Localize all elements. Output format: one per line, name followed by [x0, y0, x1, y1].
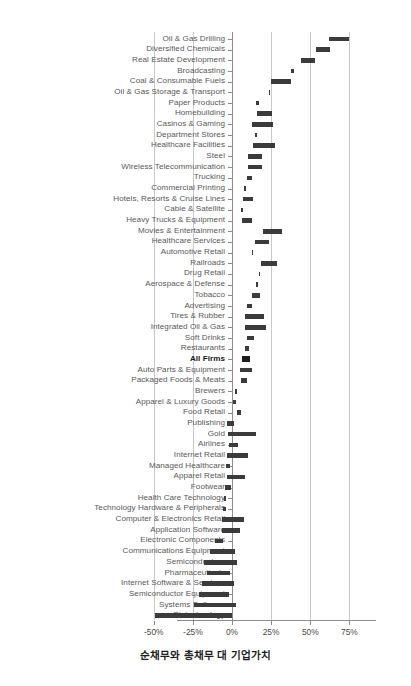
range-bar — [225, 485, 231, 490]
range-bar — [155, 613, 232, 618]
x-tick-label--50: -50% — [144, 627, 164, 637]
category-label: Publishing — [187, 417, 225, 428]
range-bar — [222, 517, 245, 522]
range-bar — [244, 186, 246, 191]
range-bar — [256, 101, 259, 106]
category-label: Health Care Technology — [138, 492, 225, 503]
range-bar — [229, 443, 238, 448]
x-axis-title: 순채무와 총채무 대 기업가치 — [0, 647, 411, 662]
range-bar — [248, 154, 261, 159]
range-bar — [242, 356, 250, 362]
category-label: Drug Retail — [184, 267, 225, 278]
category-label: Healthcare Services — [152, 235, 225, 246]
range-bar — [233, 400, 236, 405]
range-bar — [210, 549, 235, 554]
range-bar — [235, 389, 237, 394]
category-label: Wireless Telecommunication — [121, 161, 225, 172]
x-tick-label-25: 25% — [263, 627, 280, 637]
range-bar — [329, 37, 349, 42]
category-label: Auto Parts & Equipment — [138, 364, 225, 375]
range-bar — [245, 314, 264, 319]
range-bar — [261, 261, 277, 266]
range-bar — [228, 432, 256, 437]
category-label: Paper Products — [169, 97, 226, 108]
category-label: Automotive Retail — [161, 246, 225, 257]
x-tick-label--25: -25% — [183, 627, 203, 637]
range-bar — [263, 229, 282, 234]
range-bar — [245, 346, 249, 351]
category-label: Homebuilding — [175, 107, 225, 118]
category-label: Soft Drinks — [185, 332, 225, 343]
category-label: Food Retail — [183, 406, 225, 417]
range-bar — [240, 368, 253, 373]
range-bar — [247, 176, 253, 181]
range-bar — [222, 528, 240, 533]
category-label: Healthcare Facilities — [151, 139, 225, 150]
category-label: Steel — [206, 150, 225, 161]
x-tick-25 — [271, 621, 272, 625]
range-bar — [301, 58, 315, 63]
category-label: Airlines — [198, 438, 225, 449]
category-label: Footwear — [191, 481, 225, 492]
range-bar — [253, 143, 275, 148]
x-tick-75 — [349, 621, 350, 625]
x-tick-50 — [310, 621, 311, 625]
range-bar — [256, 282, 258, 287]
range-bar — [259, 272, 261, 277]
category-label: Application Software — [150, 524, 225, 535]
category-label: Managed Healthcare — [149, 460, 225, 471]
x-tick-label-0: 0% — [226, 627, 238, 637]
range-bar — [241, 378, 247, 383]
category-label: Hotels, Resorts & Cruise Lines — [113, 193, 225, 204]
x-tick-label-50: 50% — [302, 627, 319, 637]
plot-area: Oil & Gas DrillingDiversified ChemicalsR… — [0, 0, 411, 686]
category-label: Cable & Satellite — [164, 203, 225, 214]
range-bar — [204, 560, 238, 565]
category-label: Oil & Gas Drilling — [162, 33, 225, 44]
category-label: Brewers — [195, 385, 225, 396]
category-label: Commercial Printing — [151, 182, 225, 193]
range-bar — [252, 122, 272, 127]
range-bar — [224, 496, 226, 501]
range-bar — [269, 90, 271, 95]
x-tick-label-75: 75% — [341, 627, 358, 637]
range-bar — [215, 539, 223, 544]
range-bar — [255, 133, 257, 138]
category-label: Diversified Chemicals — [146, 43, 225, 54]
range-bar — [202, 581, 234, 586]
category-label: Department Stores — [156, 129, 225, 140]
category-label: Internet Retail — [174, 449, 225, 460]
range-bar — [255, 240, 269, 245]
range-bar — [291, 69, 294, 74]
range-bar — [316, 47, 330, 52]
category-label: Electronic Components — [140, 534, 225, 545]
category-label: Heavy Trucks & Equipment — [126, 214, 225, 225]
category-label: Apparel & Luxury Goods — [136, 396, 225, 407]
category-label: Advertising — [184, 300, 225, 311]
category-label: Aerospace & Defense — [145, 278, 225, 289]
range-bar — [227, 421, 233, 426]
category-label: Oil & Gas Storage & Transport — [114, 86, 225, 97]
chart-figure: Oil & Gas DrillingDiversified ChemicalsR… — [0, 0, 411, 686]
range-bar — [242, 218, 252, 223]
range-bar — [245, 325, 266, 330]
category-label: Packaged Foods & Meats — [131, 374, 225, 385]
range-bar — [243, 197, 253, 202]
chart-row: Publishing — [0, 418, 411, 429]
category-label: Restaurants — [181, 342, 225, 353]
x-tick--50 — [154, 621, 155, 625]
range-bar — [227, 453, 248, 458]
range-bar — [252, 250, 254, 255]
range-bar — [271, 79, 291, 84]
category-label: Railroads — [190, 257, 225, 268]
category-label: Broadcasting — [177, 65, 225, 76]
category-label: Apparel Retail — [173, 470, 225, 481]
range-bar — [248, 165, 261, 170]
range-bar — [227, 475, 245, 480]
range-bar — [247, 336, 254, 341]
category-label: Real Estate Development — [132, 54, 225, 65]
category-label: Coal & Consumable Fuels — [130, 75, 225, 86]
category-label: Tobacco — [195, 289, 226, 300]
range-bar — [199, 592, 229, 597]
category-label: Technology Hardware & Peripherals — [94, 502, 225, 513]
